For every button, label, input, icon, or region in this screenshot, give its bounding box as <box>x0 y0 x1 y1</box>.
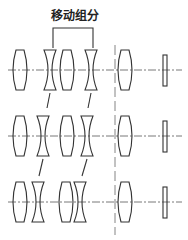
movement-line <box>82 159 87 176</box>
zoom-lens-diagram: 移动组分 <box>0 0 188 240</box>
row-position-3 <box>8 182 182 222</box>
moving-group-bracket <box>53 28 93 48</box>
movement-line <box>39 159 43 176</box>
plate-icon <box>163 121 167 152</box>
moving-group-label: 移动组分 <box>0 6 150 23</box>
lens-schematic <box>0 0 188 240</box>
plate-icon <box>163 187 167 218</box>
row-position-2 <box>8 116 182 156</box>
movement-line <box>47 93 50 108</box>
row-position-1 <box>8 50 182 90</box>
movement-line <box>88 93 91 108</box>
plate-icon <box>163 55 167 86</box>
